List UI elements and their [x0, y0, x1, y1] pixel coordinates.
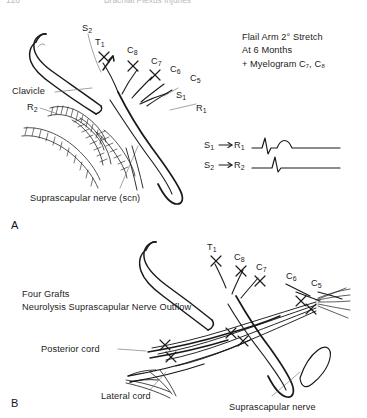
- label-trace-s1: S1: [204, 139, 214, 151]
- label-c7-b: C7: [256, 261, 267, 273]
- label-s2-a: S2: [82, 22, 92, 34]
- label-s1-a: S1: [176, 89, 186, 101]
- suprascapular-nerve-leader-b: [272, 372, 300, 396]
- label-r2-a: R2: [27, 101, 38, 113]
- label-c7-a: C7: [151, 55, 162, 67]
- panel-a-annotation-block: Flail Arm 2° Stretch At 6 Months + Myelo…: [242, 31, 325, 71]
- label-lateral-cord: Lateral cord: [101, 390, 151, 402]
- label-c6-b: C6: [286, 270, 297, 282]
- avulsion-arrow-head: [109, 56, 114, 61]
- label-trace-r2: R2: [234, 159, 245, 171]
- label-suprascapular-nerve-b: Suprascapular nerve: [229, 401, 316, 413]
- label-posterior-cord: Posterior cord: [41, 343, 100, 355]
- emg-arrow-1: [219, 143, 232, 148]
- label-c5-a: C5: [190, 72, 201, 84]
- annotation-line-2: At 6 Months: [242, 44, 325, 57]
- annotation-line-3: + Myelogram C₇, C₈: [242, 58, 325, 71]
- label-c5-b: C5: [311, 277, 322, 289]
- label-c6-a: C6: [170, 63, 181, 75]
- annotation-line-1: Flail Arm 2° Stretch: [242, 31, 325, 44]
- panel-letter-a: A: [11, 218, 18, 233]
- emg-waveform-1: [252, 138, 340, 154]
- label-trace-r1: R1: [234, 139, 245, 151]
- nerve-trunk-b: [228, 296, 293, 397]
- label-clavicle: Clavicle: [12, 85, 45, 97]
- suture-mark-proximal-1: [296, 296, 306, 306]
- label-suprascapular-nerve-a: Suprascapular nerve (scn): [30, 192, 140, 204]
- label-r1-a: R1: [196, 102, 207, 114]
- panel-letter-b: B: [11, 396, 18, 411]
- rupture-mark-c7-b: [255, 276, 265, 286]
- lateral-cord-path: [128, 340, 250, 382]
- nerve-roots-a: [103, 63, 172, 106]
- suprascapular-nerve-b: [300, 347, 330, 386]
- label-c8-a: C8: [127, 44, 138, 56]
- label-c8-b: C8: [234, 251, 245, 263]
- r1-leader: [170, 104, 196, 110]
- rupture-mark-c7: [150, 70, 160, 80]
- nerve-root-stumps-b: [215, 264, 258, 298]
- emg-waveform-2: [252, 157, 340, 172]
- rupture-mark-c8: [128, 61, 138, 71]
- rib-hatching-outer: [22, 127, 100, 188]
- rib-hatching-upper: [72, 118, 111, 165]
- r2-leader: [40, 108, 58, 114]
- rupture-mark-t1: [99, 52, 109, 62]
- panel-b-artwork: [118, 242, 350, 398]
- annotation-line-1: Four Grafts: [22, 288, 191, 301]
- figure-root: 126 Brachial Plexus Injuries: [0, 0, 367, 418]
- panel-a-artwork: [22, 34, 196, 204]
- clavicle-bone-b: [140, 242, 214, 330]
- emg-arrow-2: [219, 163, 232, 168]
- annotation-line-2: Neurolysis Suprascapular Nerve Outflow: [22, 301, 191, 314]
- label-t1-a: T1: [95, 36, 105, 48]
- label-trace-s2: S2: [204, 159, 214, 171]
- panel-b-annotation-block: Four Grafts Neurolysis Suprascapular Ner…: [22, 288, 191, 315]
- posterior-cord-leader: [118, 349, 146, 351]
- label-t1-b: T1: [207, 241, 217, 253]
- rupture-mark-t1-b: [211, 256, 221, 266]
